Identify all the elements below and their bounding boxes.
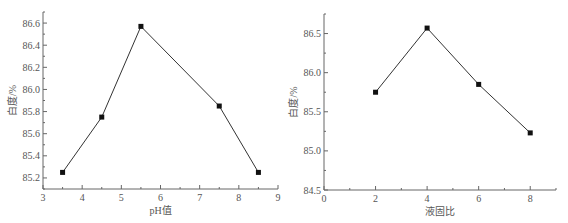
y-axis-title: 白度/% <box>287 86 299 117</box>
x-axis-title: pH值 <box>149 204 171 216</box>
charts-canvas: 345678985.285.485.685.886.086.286.486.6p… <box>0 0 568 223</box>
x-tick-label: 6 <box>476 193 481 204</box>
x-tick-label: 3 <box>41 192 46 203</box>
x-axis-title: 液固比 <box>425 205 455 217</box>
data-point-marker <box>99 115 104 120</box>
y-tick-label: 85.6 <box>23 128 41 139</box>
data-point-marker <box>528 130 533 135</box>
y-tick-label: 86.4 <box>23 40 41 51</box>
y-tick-label: 85.4 <box>23 150 41 161</box>
y-tick-label: 85.0 <box>304 145 322 156</box>
data-point-marker <box>476 82 481 87</box>
data-point-marker <box>373 90 378 95</box>
data-point-marker <box>217 104 222 109</box>
data-point-marker <box>425 26 430 31</box>
x-tick-label: 6 <box>158 192 163 203</box>
data-point-marker <box>60 170 65 175</box>
y-tick-label: 85.5 <box>304 106 322 117</box>
x-tick-label: 4 <box>425 193 430 204</box>
y-tick-label: 84.5 <box>304 185 322 196</box>
x-tick-label: 9 <box>276 192 281 203</box>
chart-liquid-solid-ratio: 0246884.585.085.586.086.5液固比白度/% <box>287 14 556 217</box>
y-tick-label: 86.6 <box>23 18 41 29</box>
y-axis-title: 白度/% <box>6 85 18 116</box>
x-tick-label: 7 <box>197 192 202 203</box>
y-tick-label: 86.0 <box>23 84 41 95</box>
y-tick-label: 86.5 <box>304 28 322 39</box>
y-tick-label: 85.2 <box>23 172 41 183</box>
data-point-marker <box>138 24 143 29</box>
x-tick-label: 8 <box>528 193 533 204</box>
x-tick-label: 8 <box>236 192 241 203</box>
y-tick-label: 85.8 <box>23 106 41 117</box>
x-tick-label: 2 <box>373 193 378 204</box>
x-tick-label: 5 <box>119 192 124 203</box>
data-line <box>63 26 259 172</box>
x-tick-label: 4 <box>80 192 85 203</box>
data-line <box>376 28 531 133</box>
data-point-marker <box>256 170 261 175</box>
chart-ph: 345678985.285.485.685.886.086.286.486.6p… <box>6 12 281 216</box>
x-tick-label: 0 <box>322 193 327 204</box>
y-tick-label: 86.2 <box>23 62 41 73</box>
y-tick-label: 86.0 <box>304 67 322 78</box>
